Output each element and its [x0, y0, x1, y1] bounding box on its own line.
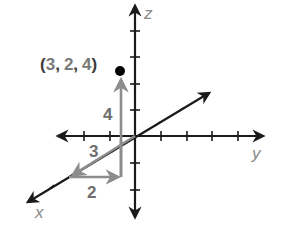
- z-axis-label: z: [143, 4, 153, 23]
- x-axis-label: x: [34, 203, 44, 222]
- paren-close: ): [92, 55, 98, 74]
- point-x-value: 3: [46, 55, 55, 74]
- point-marker: [115, 66, 125, 76]
- x-step-vector: [73, 136, 135, 175]
- y-step-label: 2: [87, 183, 96, 202]
- z-step-label: 4: [103, 105, 113, 124]
- path-vectors: [69, 80, 135, 177]
- y-axis: [58, 131, 263, 141]
- y-axis-label: y: [251, 144, 262, 163]
- point-y-value: 2: [64, 55, 73, 74]
- comma: ,: [73, 55, 78, 74]
- point-label: (3,2,4): [40, 55, 97, 74]
- coordinate-diagram: (3,2,4) 4 3 2 z y x: [0, 0, 290, 234]
- comma: ,: [55, 55, 60, 74]
- z-axis: [130, 6, 140, 217]
- x-step-label: 3: [89, 142, 98, 161]
